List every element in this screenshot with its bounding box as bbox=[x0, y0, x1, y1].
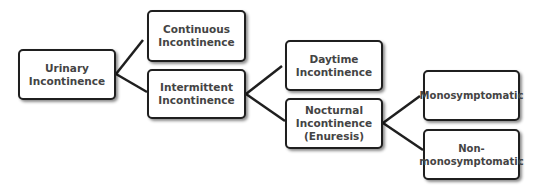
edge-urinary-continuous bbox=[116, 40, 143, 74]
node-label: Non- monosymptomatic bbox=[419, 142, 523, 168]
node-continuous-incontinence: Continuous Incontinence bbox=[147, 10, 246, 62]
edge-intermittent-nocturnal bbox=[246, 94, 285, 121]
node-label: Monosymptomatic bbox=[420, 89, 524, 102]
node-intermittent-incontinence: Intermittent Incontinence bbox=[147, 69, 246, 119]
node-label: Daytime Incontinence bbox=[296, 53, 372, 79]
node-label: Urinary Incontinence bbox=[29, 62, 105, 88]
edge-nocturnal-nonmono bbox=[383, 123, 423, 150]
node-daytime-incontinence: Daytime Incontinence bbox=[285, 40, 383, 91]
node-label: Nocturnal Incontinence (Enuresis) bbox=[296, 104, 372, 143]
node-nocturnal-incontinence: Nocturnal Incontinence (Enuresis) bbox=[285, 98, 383, 149]
edge-nocturnal-mono bbox=[383, 96, 420, 123]
node-label: Continuous Incontinence bbox=[158, 23, 234, 49]
node-label: Intermittent Incontinence bbox=[158, 81, 234, 107]
edge-intermittent-daytime bbox=[246, 66, 282, 94]
node-monosymptomatic: Monosymptomatic bbox=[423, 70, 520, 121]
edge-urinary-intermittent bbox=[116, 74, 147, 92]
node-urinary-incontinence: Urinary Incontinence bbox=[18, 49, 116, 100]
node-non-monosymptomatic: Non- monosymptomatic bbox=[423, 129, 520, 180]
